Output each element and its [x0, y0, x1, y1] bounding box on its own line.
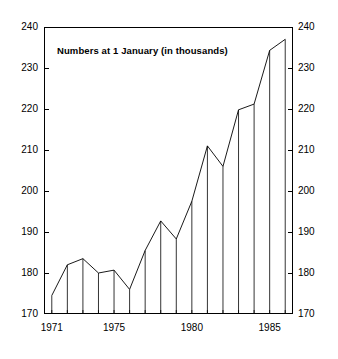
y-axis-right-tick-label: 180	[298, 268, 328, 278]
y-axis-left-tick-label: 190	[10, 227, 38, 237]
x-axis-tick-label: 1975	[97, 322, 131, 333]
y-axis-right-tick-label: 200	[298, 186, 328, 196]
plot-svg	[44, 27, 293, 314]
chart-container: Numbers at 1 January (in thousands) 2402…	[0, 0, 338, 359]
y-axis-right-tick-label: 220	[298, 104, 328, 114]
y-axis-right-tick-label: 190	[298, 227, 328, 237]
x-axis-ticks-group	[52, 310, 285, 314]
y-axis-left-tick-label: 180	[10, 268, 38, 278]
y-axis-left-tick-label: 210	[10, 145, 38, 155]
data-series-line	[52, 39, 285, 295]
y-axis-right-tick-label: 240	[298, 22, 328, 32]
y-axis-left-tick-label: 220	[10, 104, 38, 114]
x-axis-tick-label: 1985	[253, 322, 287, 333]
y-axis-left-tick-label: 170	[10, 309, 38, 319]
x-axis-tick-label: 1971	[35, 322, 69, 333]
drop-lines-group	[52, 39, 285, 314]
x-axis-tick-label: 1980	[175, 322, 209, 333]
y-axis-right-tick-label: 170	[298, 309, 328, 319]
y-axis-left-tick-label: 230	[10, 63, 38, 73]
y-axis-left-tick-label: 240	[10, 22, 38, 32]
y-axis-right-tick-label: 210	[298, 145, 328, 155]
y-axis-left-tick-label: 200	[10, 186, 38, 196]
y-axis-right-tick-label: 230	[298, 63, 328, 73]
